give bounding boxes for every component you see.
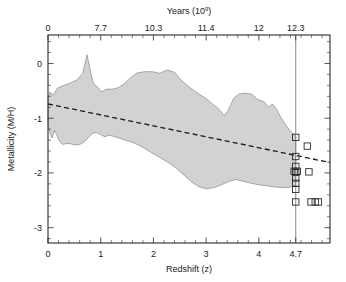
top-tick-label: 10.3 xyxy=(145,23,163,33)
top-tick-label: 0 xyxy=(45,23,50,33)
top-tick-label: 7.7 xyxy=(94,23,107,33)
top-tick-label: 12.3 xyxy=(287,23,305,33)
y-tick-label: 0 xyxy=(37,59,42,69)
y-tick-label: -1 xyxy=(34,114,42,124)
x-tick-label: 0 xyxy=(45,249,50,259)
top-axis-title: Years (109) xyxy=(167,6,212,17)
x-tick-label: 4.7 xyxy=(289,249,302,259)
x-axis-title: Redshift (z) xyxy=(166,264,212,274)
y-axis-title: Metallicity (M/H) xyxy=(6,107,16,172)
figure-container: 0017.7210.3311.44124.712.30-1-2-3 Redshi… xyxy=(0,0,346,282)
top-tick-label: 11.4 xyxy=(198,23,215,33)
x-tick-label: 4 xyxy=(256,249,261,259)
x-tick-label: 3 xyxy=(204,249,209,259)
x-tick-label: 1 xyxy=(98,249,103,259)
x-tick-label: 2 xyxy=(151,249,156,259)
y-tick-label: -2 xyxy=(34,168,42,178)
top-tick-label: 12 xyxy=(254,23,264,33)
y-tick-label: -3 xyxy=(34,223,42,233)
metallicity-redshift-plot: 0017.7210.3311.44124.712.30-1-2-3 Redshi… xyxy=(0,0,346,282)
